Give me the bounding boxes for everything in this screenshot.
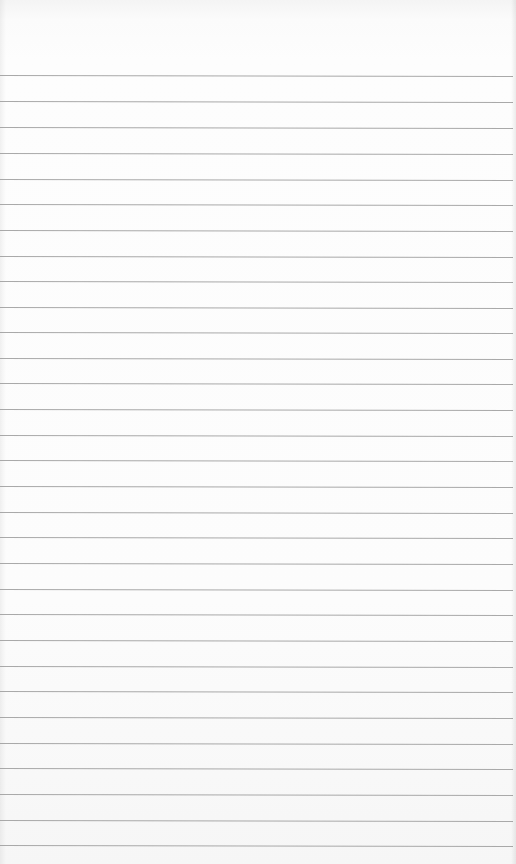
ruled-line <box>0 75 513 77</box>
ruled-line <box>0 409 513 411</box>
ruled-line <box>0 486 513 488</box>
ruled-line <box>0 383 513 385</box>
ruled-line <box>0 614 513 616</box>
ruled-line <box>0 666 513 668</box>
ruled-line <box>0 153 513 155</box>
ruled-line <box>0 640 513 642</box>
ruled-line <box>0 307 513 309</box>
ruled-line <box>0 460 513 462</box>
ruled-line <box>0 563 513 565</box>
ruled-line <box>0 794 513 796</box>
lined-paper-sheet <box>0 0 516 864</box>
ruled-line <box>0 101 513 103</box>
ruled-line <box>0 358 513 360</box>
ruled-line <box>0 127 513 129</box>
ruled-line <box>0 845 513 847</box>
ruled-line <box>0 512 513 514</box>
ruled-line <box>0 256 513 258</box>
ruled-line <box>0 281 513 283</box>
ruled-line <box>0 691 513 693</box>
ruled-line <box>0 179 513 181</box>
ruled-line <box>0 743 513 745</box>
ruled-line <box>0 717 513 719</box>
ruled-line <box>0 230 513 232</box>
ruled-line <box>0 435 513 437</box>
ruled-line <box>0 589 513 591</box>
ruled-line <box>0 204 513 206</box>
ruled-line <box>0 332 513 334</box>
ruled-line <box>0 768 513 770</box>
ruled-line <box>0 537 513 539</box>
ruled-line <box>0 820 513 822</box>
